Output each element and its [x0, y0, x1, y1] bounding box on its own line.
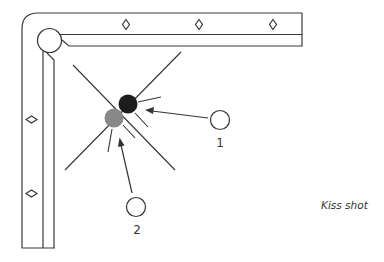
- arrow-from-ball-1: [152, 111, 208, 118]
- black-ball-direction-line: [138, 97, 161, 102]
- outer-rail-edge: [22, 13, 302, 248]
- tangent-line: [73, 65, 175, 170]
- cue-path-arrows: [118, 107, 208, 193]
- cue-ball-1-label: 1: [216, 136, 224, 150]
- arrowhead-icon: [118, 138, 125, 148]
- cue-ball-1: [211, 111, 230, 130]
- object-ball-black: [119, 95, 138, 114]
- object-ball-gray: [105, 109, 124, 128]
- cue-ball-2: [127, 198, 146, 217]
- arrow-from-ball-2: [121, 145, 132, 193]
- left-rail-inner-edge: [47, 53, 54, 248]
- table-corner: [22, 13, 302, 248]
- diamond-marker-icon: [270, 20, 277, 30]
- corner-pocket: [38, 29, 62, 53]
- diamond-marker-icon: [123, 20, 130, 30]
- cue-ball-2-label: 2: [133, 223, 141, 237]
- kiss-shot-diagram: 1 2 Kiss shot: [0, 0, 384, 262]
- diamond-marker-icon: [26, 116, 37, 123]
- top-rail-inner-edge: [62, 13, 302, 46]
- diamond-marker-icon: [196, 20, 203, 30]
- diamond-marker-icon: [26, 190, 37, 197]
- diagram-caption: Kiss shot: [321, 199, 369, 211]
- gray-ball-direction-line: [108, 129, 112, 152]
- arrowhead-icon: [145, 107, 154, 114]
- black-ball-tangent-line: [135, 113, 148, 127]
